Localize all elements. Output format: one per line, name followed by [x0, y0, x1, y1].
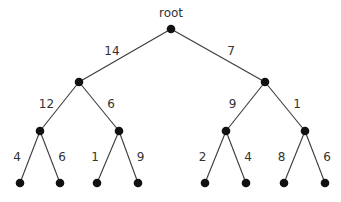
edge-root-L — [79, 29, 171, 82]
edge-weight-label: 1 — [91, 150, 99, 164]
tree-node — [75, 78, 84, 87]
edge-weight-label: 12 — [39, 97, 54, 111]
leaf-node — [201, 179, 210, 188]
edge-weight-label: 9 — [229, 97, 237, 111]
tree-node — [115, 127, 124, 136]
edge-weight-label: 4 — [13, 150, 21, 164]
edge-weight-label: 6 — [323, 150, 331, 164]
edge-RL-RLR — [226, 131, 246, 183]
edge-weight-label: 4 — [244, 150, 252, 164]
edge-weight-label: 7 — [227, 44, 235, 58]
leaf-node — [93, 179, 102, 188]
edge-weight-label: 1 — [293, 97, 301, 111]
leaf-node — [134, 179, 143, 188]
edge-LR-LRR — [119, 131, 138, 183]
edge-LR-LRL — [97, 131, 119, 183]
leaf-node — [242, 179, 251, 188]
tree-node — [36, 127, 45, 136]
tree-diagram: 1471269146192486 root — [0, 0, 341, 202]
leaf-node — [321, 179, 330, 188]
edge-LL-LLL — [20, 131, 40, 183]
leaf-node — [16, 179, 25, 188]
tree-node — [301, 127, 310, 136]
edge-weight-label: 8 — [278, 150, 286, 164]
edge-RR-RRR — [305, 131, 325, 183]
edge-weight-label: 9 — [137, 150, 145, 164]
edge-weight-label: 6 — [107, 97, 115, 111]
edge-weight-label: 2 — [199, 150, 207, 164]
leaf-node — [280, 179, 289, 188]
edge-RL-RLL — [205, 131, 226, 183]
edge-weight-label: 14 — [104, 44, 119, 58]
edge-weight-label: 6 — [58, 150, 66, 164]
tree-node — [261, 78, 270, 87]
edge-root-R — [171, 29, 265, 82]
root-node — [167, 25, 176, 34]
tree-node — [222, 127, 231, 136]
edge-RR-RRL — [284, 131, 305, 183]
leaf-node — [56, 179, 65, 188]
root-label: root — [159, 6, 183, 20]
edge-LL-LLR — [40, 131, 60, 183]
